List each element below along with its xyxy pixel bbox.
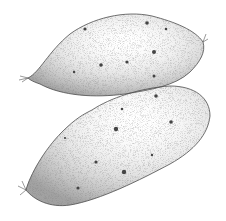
upper-sweet-potato xyxy=(19,14,208,96)
lower-sweet-potato xyxy=(18,86,210,206)
sweet-potatoes-drawing xyxy=(0,0,226,221)
illustration xyxy=(0,0,226,221)
